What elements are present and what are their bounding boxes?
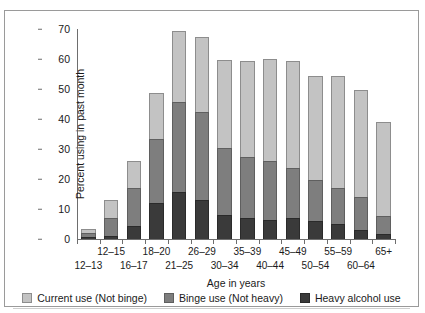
bar-segment[interactable] xyxy=(172,192,187,239)
bar-segment[interactable] xyxy=(376,216,391,234)
bar-segment[interactable] xyxy=(195,37,210,112)
x-axis-label: Age in years xyxy=(77,277,395,289)
bar-stack[interactable] xyxy=(127,161,142,239)
legend-divider xyxy=(13,308,410,309)
bar-segment[interactable] xyxy=(240,61,255,157)
legend-item[interactable]: Current use (Not binge) xyxy=(22,292,147,304)
bar-segment[interactable] xyxy=(149,203,164,239)
y-tick-mark xyxy=(38,119,42,120)
y-tick-label: 30 xyxy=(42,144,77,155)
bar-segment[interactable] xyxy=(263,59,278,161)
plot-area: 010203040506070 Percent using in past mo… xyxy=(77,29,395,239)
x-tick-label: 21–25 xyxy=(165,261,193,271)
bar-segment[interactable] xyxy=(149,93,164,139)
bar-stack[interactable] xyxy=(240,61,255,239)
bar-segment[interactable] xyxy=(331,76,346,188)
legend-label: Binge use (Not heavy) xyxy=(179,292,283,304)
bar-stack[interactable] xyxy=(263,59,278,239)
y-tick-label: 60 xyxy=(42,54,77,65)
legend-item[interactable]: Binge use (Not heavy) xyxy=(164,292,283,304)
bar-segment[interactable] xyxy=(104,218,119,236)
x-tick-label: 35–39 xyxy=(233,247,261,257)
bar-segment[interactable] xyxy=(217,148,232,216)
x-tick-mark xyxy=(281,239,282,244)
y-tick-label: 0 xyxy=(42,234,77,245)
bar-segment[interactable] xyxy=(286,218,301,239)
bar-stack[interactable] xyxy=(172,31,187,239)
bar-segment[interactable] xyxy=(104,200,119,218)
x-tick-mark xyxy=(122,239,123,244)
bar-segment[interactable] xyxy=(149,139,164,203)
bar-segment[interactable] xyxy=(376,122,391,217)
bar-segment[interactable] xyxy=(354,90,369,197)
bar-segment[interactable] xyxy=(286,168,301,218)
bar-segment[interactable] xyxy=(308,180,323,221)
x-tick-mark xyxy=(395,239,396,244)
bar-segment[interactable] xyxy=(331,224,346,239)
x-tick-mark xyxy=(145,239,146,244)
medium-gray-swatch xyxy=(164,293,174,303)
bar-segment[interactable] xyxy=(263,161,278,220)
bar-series-container xyxy=(77,29,395,239)
bar-segment[interactable] xyxy=(308,221,323,239)
bar-segment[interactable] xyxy=(195,112,210,200)
dark-gray-swatch xyxy=(300,293,310,303)
y-tick-label: 40 xyxy=(42,114,77,125)
x-tick-mark xyxy=(350,239,351,244)
bar-segment[interactable] xyxy=(217,60,232,148)
bar-segment[interactable] xyxy=(240,157,255,218)
x-tick-label: 12–13 xyxy=(74,261,102,271)
bar-segment[interactable] xyxy=(127,226,142,239)
bar-segment[interactable] xyxy=(127,161,142,188)
bar-segment[interactable] xyxy=(240,218,255,239)
y-tick-label: 20 xyxy=(42,174,77,185)
x-tick-label: 12–15 xyxy=(97,247,125,257)
bar-segment[interactable] xyxy=(331,188,346,224)
y-tick-label: 50 xyxy=(42,84,77,95)
x-tick-mark xyxy=(168,239,169,244)
bar-stack[interactable] xyxy=(217,60,232,239)
chart-figure: 010203040506070 Percent using in past mo… xyxy=(4,10,419,307)
x-tick-mark xyxy=(327,239,328,244)
y-tick-label: 70 xyxy=(42,24,77,35)
bar-segment[interactable] xyxy=(172,31,187,102)
bar-stack[interactable] xyxy=(149,93,164,239)
bar-segment[interactable] xyxy=(81,237,96,239)
y-tick-mark xyxy=(38,89,42,90)
legend-item[interactable]: Heavy alcohol use xyxy=(300,292,401,304)
bar-segment[interactable] xyxy=(354,230,369,239)
bar-segment[interactable] xyxy=(195,200,210,239)
bar-stack[interactable] xyxy=(331,76,346,239)
y-tick-label: 10 xyxy=(42,204,77,215)
x-tick-label: 65+ xyxy=(375,247,392,257)
x-tick-mark xyxy=(304,239,305,244)
bar-segment[interactable] xyxy=(172,102,187,192)
bar-stack[interactable] xyxy=(104,200,119,239)
light-gray-swatch xyxy=(22,293,32,303)
bar-segment[interactable] xyxy=(354,197,369,230)
bar-segment[interactable] xyxy=(217,215,232,239)
legend-label: Current use (Not binge) xyxy=(37,292,147,304)
bar-segment[interactable] xyxy=(286,61,301,168)
x-tick-mark xyxy=(77,239,78,244)
y-tick-mark xyxy=(38,59,42,60)
bar-segment[interactable] xyxy=(127,188,142,226)
y-tick-mark xyxy=(38,239,42,240)
x-tick-label: 55–59 xyxy=(324,247,352,257)
bar-segment[interactable] xyxy=(104,236,119,239)
bar-stack[interactable] xyxy=(81,229,96,239)
x-tick-mark xyxy=(213,239,214,244)
bar-stack[interactable] xyxy=(195,37,210,239)
y-tick-mark xyxy=(38,179,42,180)
bar-stack[interactable] xyxy=(308,76,323,239)
bar-stack[interactable] xyxy=(354,90,369,239)
bar-stack[interactable] xyxy=(376,122,391,239)
bar-segment[interactable] xyxy=(308,76,323,180)
bar-segment[interactable] xyxy=(263,220,278,240)
y-tick-mark xyxy=(38,29,42,30)
x-tick-label: 60–64 xyxy=(347,261,375,271)
x-tick-mark xyxy=(100,239,101,244)
bar-stack[interactable] xyxy=(286,61,301,239)
chart-legend: Current use (Not binge)Binge use (Not he… xyxy=(5,292,418,304)
bar-segment[interactable] xyxy=(376,234,391,239)
